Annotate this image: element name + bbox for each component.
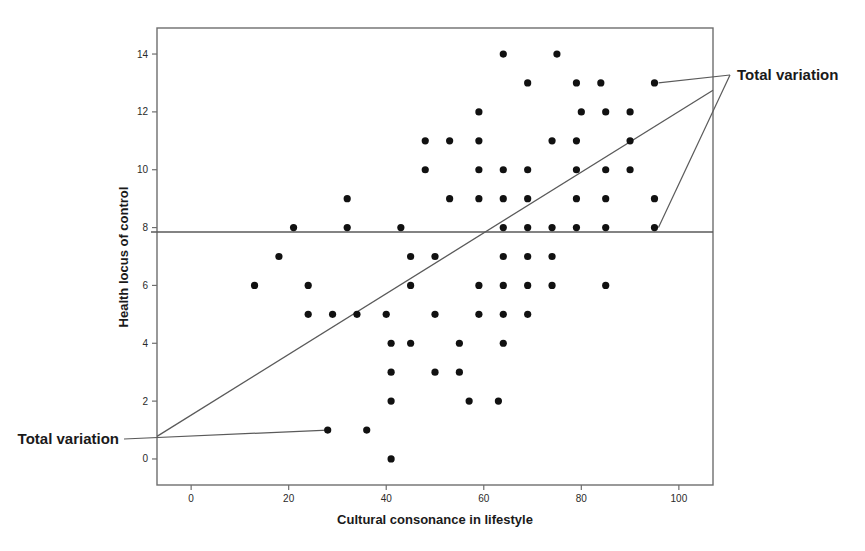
data-point (344, 195, 351, 202)
data-point (524, 166, 531, 173)
data-point (305, 282, 312, 289)
scatter-plot-figure: 02468101214 020406080100 Cultural conson… (0, 0, 865, 551)
x-tick-label: 0 (188, 493, 194, 504)
data-point (475, 311, 482, 318)
data-point (651, 195, 658, 202)
data-point (573, 195, 580, 202)
x-axis-title: Cultural consonance in lifestyle (337, 512, 533, 527)
data-point (500, 195, 507, 202)
annotation-top-right: Total variation (737, 66, 838, 83)
x-tick-label: 40 (381, 493, 393, 504)
annotation-bottom-left: Total variation (18, 430, 119, 447)
data-point (431, 253, 438, 260)
data-point (626, 108, 633, 115)
data-point (602, 166, 609, 173)
data-point (388, 369, 395, 376)
data-point (495, 398, 502, 405)
data-point (553, 50, 560, 57)
chart-canvas: 02468101214 020406080100 Cultural conson… (0, 0, 865, 551)
data-point (388, 455, 395, 462)
data-point (329, 311, 336, 318)
y-tick-label: 0 (142, 453, 148, 464)
data-point (446, 195, 453, 202)
data-point (500, 166, 507, 173)
x-tick-label: 80 (576, 493, 588, 504)
data-point (388, 398, 395, 405)
data-point (407, 340, 414, 347)
data-point (431, 311, 438, 318)
data-point (324, 426, 331, 433)
data-point (353, 311, 360, 318)
data-point (475, 166, 482, 173)
data-point (475, 195, 482, 202)
data-point (602, 108, 609, 115)
data-point (651, 79, 658, 86)
data-point (524, 311, 531, 318)
data-point (573, 224, 580, 231)
data-point (602, 224, 609, 231)
data-point (431, 369, 438, 376)
data-point (548, 224, 555, 231)
data-point (251, 282, 258, 289)
data-point (626, 166, 633, 173)
data-point (475, 137, 482, 144)
data-point (500, 311, 507, 318)
data-point (397, 224, 404, 231)
data-point (573, 166, 580, 173)
data-point (500, 224, 507, 231)
data-point (456, 340, 463, 347)
x-tick-label: 20 (283, 493, 295, 504)
data-point (475, 108, 482, 115)
data-point (500, 282, 507, 289)
data-point (548, 282, 555, 289)
data-point (602, 282, 609, 289)
y-axis-title: Health locus of control (116, 187, 131, 328)
data-point (475, 282, 482, 289)
data-point (626, 137, 633, 144)
data-point (573, 79, 580, 86)
data-point (500, 340, 507, 347)
data-point (651, 224, 658, 231)
data-point (422, 137, 429, 144)
data-point (524, 282, 531, 289)
data-point (456, 369, 463, 376)
data-point (548, 253, 555, 260)
y-tick-label: 4 (142, 338, 148, 349)
data-point (275, 253, 282, 260)
data-point (524, 224, 531, 231)
data-point (446, 137, 453, 144)
data-point (500, 50, 507, 57)
data-point (388, 340, 395, 347)
data-point (524, 195, 531, 202)
data-point (407, 253, 414, 260)
y-tick-label: 10 (137, 164, 149, 175)
x-tick-label: 100 (671, 493, 688, 504)
y-tick-label: 14 (137, 49, 149, 60)
data-point (290, 224, 297, 231)
data-point (305, 311, 312, 318)
data-point (578, 108, 585, 115)
data-point (363, 426, 370, 433)
x-tick-label: 60 (478, 493, 490, 504)
y-tick-label: 8 (142, 222, 148, 233)
y-tick-label: 2 (142, 396, 148, 407)
data-point (466, 398, 473, 405)
data-point (548, 137, 555, 144)
y-tick-label: 6 (142, 280, 148, 291)
data-point (407, 282, 414, 289)
y-tick-label: 12 (137, 106, 149, 117)
data-point (573, 137, 580, 144)
data-point (422, 166, 429, 173)
data-point (524, 79, 531, 86)
data-point (524, 253, 531, 260)
data-point (500, 253, 507, 260)
data-point (344, 224, 351, 231)
data-point (383, 311, 390, 318)
data-point (602, 195, 609, 202)
data-point (597, 79, 604, 86)
